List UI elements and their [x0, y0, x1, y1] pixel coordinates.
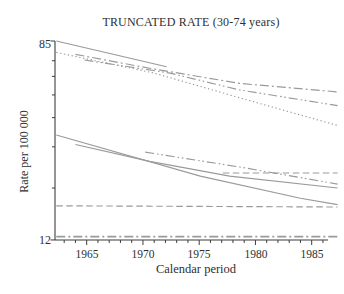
x-axis-ticks — [64, 240, 323, 245]
chart-figure: TRUNCATED RATE (30-74 years) Rate per 10… — [0, 0, 344, 294]
series-mid-solid-shallow — [76, 145, 338, 189]
plot-canvas — [0, 0, 344, 294]
x-axis-label: Calendar period — [121, 262, 271, 277]
series-upper-dash-dot-dot — [84, 60, 337, 106]
series-upper-dotted — [56, 52, 337, 125]
chart-title: TRUNCATED RATE (30-74 years) — [41, 15, 341, 30]
series-upper-dash-dot — [76, 54, 338, 92]
series-upper-solid — [56, 41, 166, 67]
series-lower-dashed-flat — [56, 206, 337, 207]
y-tick-label-bottom: 12 — [29, 233, 51, 248]
x-tick-label-1970: 1970 — [127, 248, 159, 260]
y-axis-label: Rate per 100 000 — [17, 97, 32, 207]
x-tick-label-1980: 1980 — [240, 248, 272, 260]
x-tick-label-1975: 1975 — [183, 248, 215, 260]
x-tick-label-1985: 1985 — [296, 248, 328, 260]
y-axis-ticks — [51, 41, 56, 240]
y-tick-label-top: 85 — [29, 37, 51, 52]
x-tick-label-1965: 1965 — [71, 248, 103, 260]
